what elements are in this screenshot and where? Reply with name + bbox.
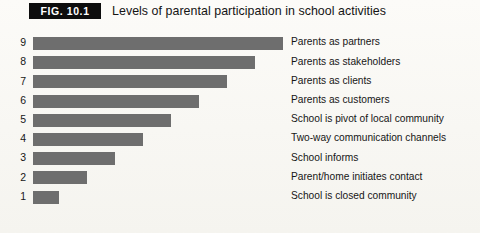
bar — [33, 171, 87, 184]
bar-rank-label: 2 — [8, 170, 26, 183]
bar-label: Parents as partners — [291, 35, 380, 50]
bar-row: 1School is closed community — [0, 190, 480, 209]
bar-row: 4Two-way communication channels — [0, 132, 480, 151]
bar-label: School is closed community — [291, 189, 417, 204]
bar-row: 3School informs — [0, 151, 480, 170]
bar-rank-label: 4 — [8, 132, 26, 145]
bar-rank-label: 3 — [8, 151, 26, 164]
bar-label: School is pivot of local community — [291, 112, 444, 127]
bar-label: Parents as stakeholders — [291, 54, 400, 69]
bar-rank-label: 6 — [8, 94, 26, 107]
bar — [33, 152, 115, 165]
bar-row: 8Parents as stakeholders — [0, 55, 480, 74]
bar-rank-label: 1 — [8, 190, 26, 203]
bar-label: Parent/home initiates contact — [291, 169, 422, 184]
bar — [33, 191, 59, 204]
bar-rank-label: 9 — [8, 36, 26, 49]
bar-label: Two-way communication channels — [291, 131, 446, 146]
bar — [33, 114, 171, 127]
bar — [33, 133, 143, 146]
bar — [33, 56, 255, 69]
bar-rank-label: 5 — [8, 113, 26, 126]
bar — [33, 75, 227, 88]
bar — [33, 37, 283, 50]
figure-header: FIG. 10.1 Levels of parental participati… — [0, 0, 480, 26]
bar-row: 2Parent/home initiates contact — [0, 170, 480, 189]
figure-number-badge: FIG. 10.1 — [29, 3, 101, 19]
bar-row: 6Parents as customers — [0, 94, 480, 113]
bar-label: Parents as clients — [291, 73, 371, 88]
bar-rank-label: 8 — [8, 55, 26, 68]
bar — [33, 95, 199, 108]
bar-rank-label: 7 — [8, 74, 26, 87]
bar-label: Parents as customers — [291, 93, 390, 108]
bar-row: 5School is pivot of local community — [0, 113, 480, 132]
bar-label: School informs — [291, 150, 358, 165]
figure-title: Levels of parental participation in scho… — [112, 2, 386, 20]
bar-chart: 9Parents as partners8Parents as stakehol… — [0, 36, 480, 221]
figure-container: FIG. 10.1 Levels of parental participati… — [0, 0, 480, 233]
bar-row: 9Parents as partners — [0, 36, 480, 55]
bar-row: 7Parents as clients — [0, 74, 480, 93]
